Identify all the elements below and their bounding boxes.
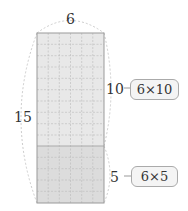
total-height-label: 15	[14, 110, 32, 124]
width-label: 6	[66, 12, 75, 26]
top-expression-box: 6×10	[130, 79, 179, 100]
bottom-height-label: 5	[110, 170, 119, 184]
top-height-label: 10	[106, 82, 124, 96]
bottom-expression-box: 6×5	[131, 166, 178, 187]
